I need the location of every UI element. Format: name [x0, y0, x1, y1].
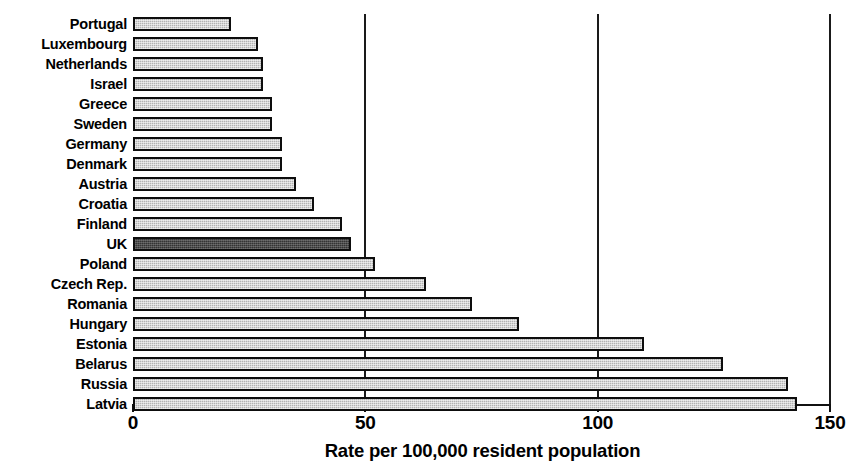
chart-row: Portugal	[0, 14, 867, 34]
bar-russia	[133, 377, 788, 391]
category-label-netherlands: Netherlands	[0, 54, 127, 74]
x-tick-label: 50	[325, 412, 405, 434]
bar-netherlands	[133, 57, 263, 71]
chart-row: Sweden	[0, 114, 867, 134]
category-label-russia: Russia	[0, 374, 127, 394]
category-label-latvia: Latvia	[0, 394, 127, 414]
bar-denmark	[133, 157, 282, 171]
chart-row: Czech Rep.	[0, 274, 867, 294]
category-label-estonia: Estonia	[0, 334, 127, 354]
chart-row: UK	[0, 234, 867, 254]
bar-finland	[133, 217, 342, 231]
bar-chart: 050100150PortugalLuxembourgNetherlandsIs…	[0, 0, 867, 471]
category-label-finland: Finland	[0, 214, 127, 234]
chart-row: Netherlands	[0, 54, 867, 74]
x-tick-label: 100	[558, 412, 638, 434]
chart-row: Belarus	[0, 354, 867, 374]
bar-austria	[133, 177, 296, 191]
chart-row: Romania	[0, 294, 867, 314]
category-label-germany: Germany	[0, 134, 127, 154]
chart-row: Croatia	[0, 194, 867, 214]
category-label-hungary: Hungary	[0, 314, 127, 334]
bar-sweden	[133, 117, 272, 131]
chart-row: Denmark	[0, 154, 867, 174]
category-label-denmark: Denmark	[0, 154, 127, 174]
category-label-croatia: Croatia	[0, 194, 127, 214]
bar-greece	[133, 97, 272, 111]
bar-estonia	[133, 337, 644, 351]
chart-row: Russia	[0, 374, 867, 394]
bar-romania	[133, 297, 472, 311]
category-label-czech-rep: Czech Rep.	[0, 274, 127, 294]
bar-belarus	[133, 357, 723, 371]
category-label-israel: Israel	[0, 74, 127, 94]
bar-portugal	[133, 17, 231, 31]
chart-row: Finland	[0, 214, 867, 234]
plot-area: 050100150PortugalLuxembourgNetherlandsIs…	[0, 0, 867, 410]
chart-row: Germany	[0, 134, 867, 154]
category-label-belarus: Belarus	[0, 354, 127, 374]
x-tick-label: 0	[93, 412, 173, 434]
category-label-portugal: Portugal	[0, 14, 127, 34]
category-label-greece: Greece	[0, 94, 127, 114]
chart-row: Austria	[0, 174, 867, 194]
chart-row: Israel	[0, 74, 867, 94]
category-label-luxembourg: Luxembourg	[0, 34, 127, 54]
category-label-poland: Poland	[0, 254, 127, 274]
bar-uk	[133, 237, 351, 251]
bar-israel	[133, 77, 263, 91]
bar-czech-rep	[133, 277, 426, 291]
chart-row: Estonia	[0, 334, 867, 354]
bar-luxembourg	[133, 37, 258, 51]
bar-poland	[133, 257, 375, 271]
chart-row: Greece	[0, 94, 867, 114]
bar-germany	[133, 137, 282, 151]
bar-hungary	[133, 317, 519, 331]
category-label-sweden: Sweden	[0, 114, 127, 134]
bar-latvia	[133, 397, 797, 411]
category-label-austria: Austria	[0, 174, 127, 194]
chart-row: Latvia	[0, 394, 867, 414]
chart-row: Poland	[0, 254, 867, 274]
category-label-romania: Romania	[0, 294, 127, 314]
chart-row: Luxembourg	[0, 34, 867, 54]
bar-croatia	[133, 197, 314, 211]
x-tick-label: 150	[790, 412, 867, 434]
chart-row: Hungary	[0, 314, 867, 334]
x-axis-title: Rate per 100,000 resident population	[133, 440, 832, 462]
category-label-uk: UK	[0, 234, 127, 254]
